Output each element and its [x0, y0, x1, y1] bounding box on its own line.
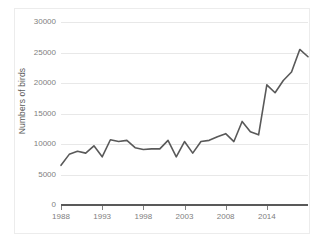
x-tick	[61, 206, 62, 210]
x-tick-label: 1993	[93, 212, 111, 221]
y-tick-label: 10000	[16, 140, 56, 148]
series-line-birds	[61, 49, 308, 165]
x-tick-label: 1998	[134, 212, 152, 221]
y-tick-label: 30000	[16, 18, 56, 26]
x-tick	[143, 206, 144, 210]
x-tick	[102, 206, 103, 210]
x-tick-label: 1988	[52, 212, 70, 221]
x-tick-label: 2014	[258, 212, 276, 221]
x-tick-label: 2003	[176, 212, 194, 221]
plot-area	[61, 22, 308, 205]
x-tick	[185, 206, 186, 210]
y-axis-tick-labels: 300002500020000150001000050000	[16, 0, 56, 242]
y-tick-label: 25000	[16, 49, 56, 57]
x-tick	[267, 206, 268, 210]
y-tick-label: 0	[16, 201, 56, 209]
bird-population-line-chart: Numbers of birds 30000250002000015000100…	[0, 0, 330, 242]
x-tick	[226, 206, 227, 210]
x-tick-label: 2008	[217, 212, 235, 221]
y-tick-label: 15000	[16, 110, 56, 118]
y-tick-label: 5000	[16, 171, 56, 179]
series-line-svg	[61, 22, 308, 205]
y-tick-label: 20000	[16, 79, 56, 87]
